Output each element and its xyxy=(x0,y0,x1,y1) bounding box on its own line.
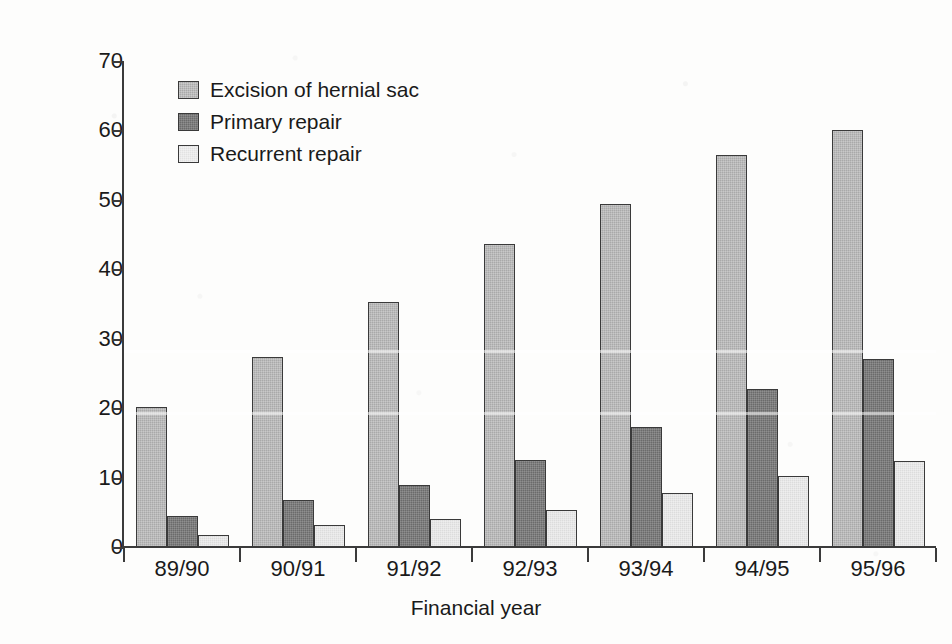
bar-group xyxy=(820,61,936,547)
legend-item-label: Excision of hernial sac xyxy=(210,78,419,102)
x-axis-title: Financial year xyxy=(0,596,952,620)
bar[interactable] xyxy=(167,516,198,547)
bar[interactable] xyxy=(716,155,747,547)
bar[interactable] xyxy=(747,389,778,547)
x-axis-tick-label: 94/95 xyxy=(702,556,822,582)
x-axis-tick-label: 90/91 xyxy=(238,556,358,582)
x-axis-tick-label: 95/96 xyxy=(818,556,938,582)
bar[interactable] xyxy=(399,485,430,547)
legend-swatch-icon xyxy=(178,145,199,163)
x-axis-tick-label: 92/93 xyxy=(470,556,590,582)
bar[interactable] xyxy=(778,476,809,548)
bar[interactable] xyxy=(252,357,283,547)
bar[interactable] xyxy=(894,461,925,547)
bar[interactable] xyxy=(631,427,662,547)
legend-item-label: Primary repair xyxy=(210,110,342,134)
bar[interactable] xyxy=(368,302,399,547)
legend-item-label: Recurrent repair xyxy=(210,142,362,166)
bar[interactable] xyxy=(430,519,461,547)
bar[interactable] xyxy=(546,510,577,547)
x-axis-tick-label: 93/94 xyxy=(586,556,706,582)
bar[interactable] xyxy=(832,130,863,547)
bar[interactable] xyxy=(136,407,167,547)
bar-group xyxy=(472,61,588,547)
legend-swatch-icon xyxy=(178,81,199,99)
x-axis-tick-label: 91/92 xyxy=(354,556,474,582)
legend-item[interactable]: Excision of hernial sac xyxy=(178,78,419,102)
x-axis-tick-label: 89/90 xyxy=(122,556,242,582)
legend-swatch-icon xyxy=(178,113,199,131)
bar[interactable] xyxy=(198,535,229,547)
bar[interactable] xyxy=(662,493,693,547)
chart-legend: Excision of hernial sacPrimary repairRec… xyxy=(178,78,419,166)
bar-group xyxy=(704,61,820,547)
bar[interactable] xyxy=(863,359,894,547)
legend-item[interactable]: Recurrent repair xyxy=(178,142,419,166)
bar[interactable] xyxy=(314,525,345,547)
bar[interactable] xyxy=(484,244,515,547)
bar[interactable] xyxy=(600,204,631,547)
legend-item[interactable]: Primary repair xyxy=(178,110,419,134)
bar[interactable] xyxy=(515,460,546,547)
bar-chart: Percentage of day cases 010203040506070 … xyxy=(0,0,952,644)
bar-group xyxy=(588,61,704,547)
bar[interactable] xyxy=(283,500,314,547)
